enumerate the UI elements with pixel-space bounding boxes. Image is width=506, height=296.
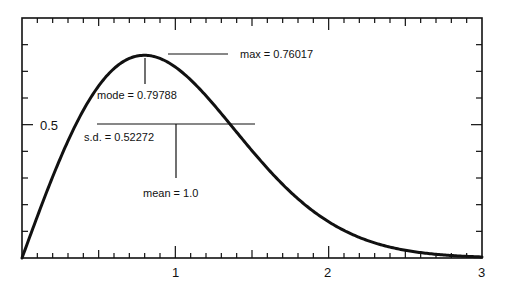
rayleigh-density-chart: max = 0.76017 mode = 0.79788 s.d. = 0.52… [0, 0, 506, 296]
x-tick-label-2: 2 [324, 265, 331, 280]
x-tick-label-1: 1 [172, 265, 179, 280]
sd-annotation: s.d. = 0.52272 [84, 131, 154, 143]
max-annotation: max = 0.76017 [240, 48, 313, 60]
mode-annotation: mode = 0.79788 [97, 89, 177, 101]
y-tick-label-0-5: 0.5 [40, 118, 58, 133]
x-tick-label-3: 3 [478, 265, 485, 280]
mean-annotation: mean = 1.0 [143, 187, 198, 199]
density-curve [22, 55, 482, 258]
